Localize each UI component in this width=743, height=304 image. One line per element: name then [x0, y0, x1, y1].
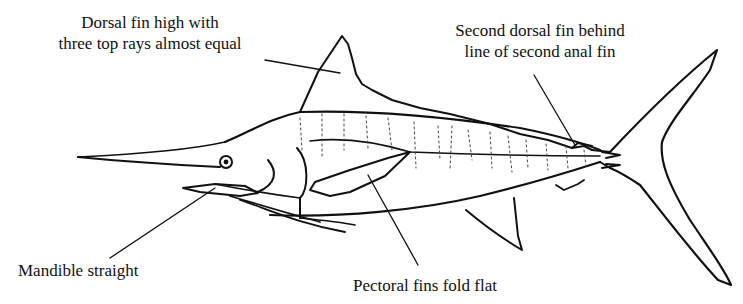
label-dorsal-fin: Dorsal fin high with three top rays almo… [30, 12, 270, 54]
bill [78, 157, 220, 167]
head-outline [225, 112, 300, 142]
label-pectoral-fins: Pectoral fins fold flat [330, 275, 520, 296]
label-second-dorsal-fin: Second dorsal fin behind line of second … [420, 20, 660, 62]
leader-lines [110, 60, 575, 265]
label-line: Dorsal fin high with [30, 12, 270, 33]
first-anal-fin [466, 198, 522, 250]
leader-mandible [110, 188, 215, 258]
second-anal-fin [556, 180, 584, 190]
leader-second-dorsal [534, 75, 575, 145]
label-mandible: Mandible straight [18, 260, 178, 281]
pectoral-fin [310, 152, 410, 196]
belly-line [270, 162, 600, 216]
label-line: Second dorsal fin behind [420, 20, 660, 41]
leader-dorsal [265, 60, 340, 73]
gill-cover-2 [297, 148, 306, 218]
label-line: line of second anal fin [420, 41, 660, 62]
back-line [300, 112, 600, 150]
gill-cover-1 [258, 160, 274, 192]
body-bars [300, 114, 586, 172]
marlin-diagram: Dorsal fin high with three top rays almo… [0, 0, 743, 304]
label-line: Mandible straight [18, 260, 178, 281]
label-line: Pectoral fins fold flat [330, 275, 520, 296]
caudal-fin [610, 50, 731, 285]
label-line: three top rays almost equal [30, 33, 270, 54]
leader-pectoral [368, 175, 418, 265]
